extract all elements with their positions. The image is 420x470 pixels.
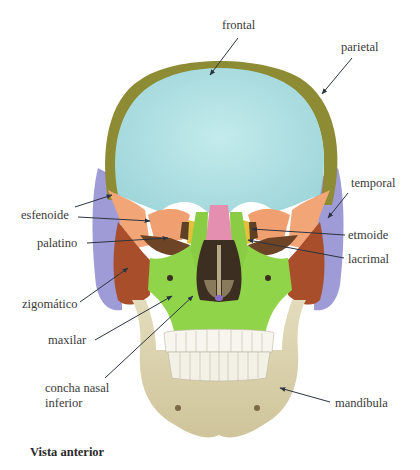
mental-foramen-left <box>175 405 181 411</box>
teeth <box>164 329 274 381</box>
label-esfenoide: esfenoide <box>21 208 69 222</box>
foramen-left <box>167 275 173 281</box>
frontal-bone <box>115 68 324 222</box>
figure-caption: Vista anterior <box>30 445 104 460</box>
label-etmoide: etmoide <box>348 228 388 242</box>
label-concha-line1: concha nasal <box>45 381 109 395</box>
vomer <box>217 245 221 300</box>
label-concha-line2: inferior <box>45 396 82 410</box>
label-lacrimal: lacrimal <box>348 252 389 266</box>
label-parietal: parietal <box>341 40 378 54</box>
label-temporal: temporal <box>351 176 395 190</box>
mental-foramen-right <box>254 405 260 411</box>
label-mandibula: mandíbula <box>335 396 388 410</box>
label-maxilar: maxilar <box>48 333 86 347</box>
nasal-bone <box>206 205 232 240</box>
label-frontal: frontal <box>222 18 255 32</box>
skull-diagram: frontal parietal temporal esfenoide etmo… <box>0 0 420 470</box>
label-zigomatico: zigomático <box>22 297 78 311</box>
vomer-tip <box>215 295 223 301</box>
arrow-parietal <box>322 58 352 94</box>
label-palatino: palatino <box>37 236 77 250</box>
foramen-right <box>265 275 271 281</box>
